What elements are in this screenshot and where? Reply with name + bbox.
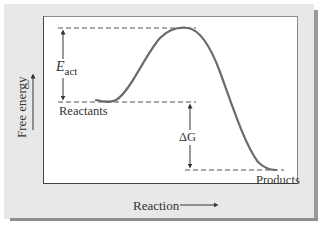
activation-energy-label: Eact: [56, 59, 77, 78]
energy-diagram-figure: Eact Reactants ΔG Products Reaction Free…: [0, 0, 323, 230]
activation-energy-subscript: act: [65, 65, 78, 77]
delta-g-label: ΔG: [179, 130, 196, 145]
energy-curve-svg: [0, 0, 323, 230]
reactants-label: Reactants: [59, 105, 108, 118]
y-axis-label: Free energy: [15, 77, 28, 138]
x-axis-label: Reaction: [133, 199, 179, 212]
activation-energy-symbol: E: [56, 59, 65, 74]
reaction-energy-curve: [96, 28, 276, 170]
products-label: Products: [256, 174, 300, 187]
